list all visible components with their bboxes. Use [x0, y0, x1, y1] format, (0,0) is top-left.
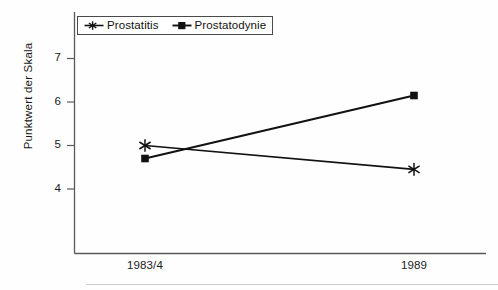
legend-label-prostatitis: Prostatitis	[107, 20, 159, 32]
chart-legend: Prostatitis Prostatodynie	[77, 16, 273, 35]
series-prostatodynie-marker-1989	[410, 92, 418, 100]
y-tick-label-6: 6	[39, 95, 61, 107]
y-tick-label-4: 4	[39, 182, 61, 194]
chart-figure: Punktwert der Skala 7 6 5 4 1983/4 1989 …	[0, 0, 498, 290]
star-marker-icon	[84, 20, 104, 31]
y-tick-label-7: 7	[39, 51, 61, 63]
series-prostatodynie	[141, 92, 418, 163]
series-prostatodynie-marker-1983-4	[141, 155, 149, 163]
series-prostatitis-line	[145, 146, 414, 170]
series-prostatitis	[139, 139, 419, 176]
x-tick-label-1983-4: 1983/4	[100, 259, 190, 271]
y-axis-ticks	[67, 59, 75, 190]
page-rule-divider	[86, 284, 498, 285]
legend-entry-prostatodynie: Prostatodynie	[172, 17, 267, 34]
legend-label-prostatodynie: Prostatodynie	[195, 20, 267, 32]
legend-entry-prostatitis: Prostatitis	[84, 17, 159, 34]
line-chart-plot	[0, 0, 498, 290]
y-axis-title: Punktwert der Skala	[22, 16, 34, 176]
square-marker-icon	[172, 20, 192, 31]
x-tick-label-1989: 1989	[369, 259, 459, 271]
y-tick-label-5: 5	[39, 138, 61, 150]
